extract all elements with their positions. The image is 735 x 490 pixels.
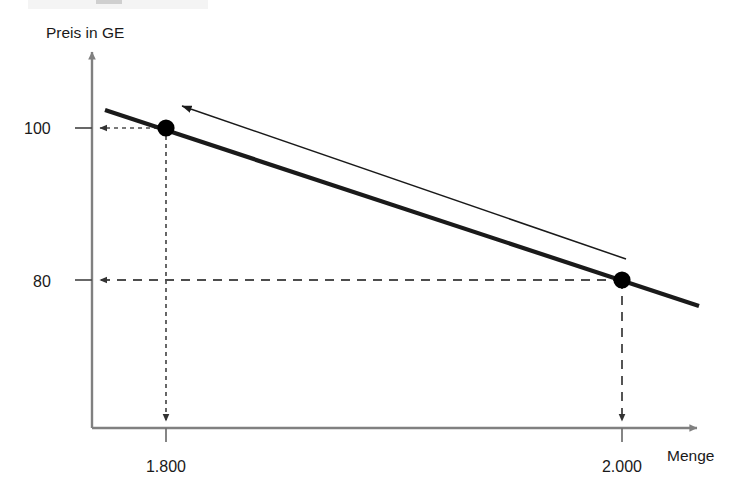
chart-canvas: Preis in GE Menge 100 80 1.800 xyxy=(0,0,735,490)
y-tick-label-80: 80 xyxy=(33,273,51,290)
guide-price-80 xyxy=(100,280,622,442)
data-point-1800-100 xyxy=(157,119,174,136)
guide-price-100 xyxy=(100,128,166,442)
data-point-2000-80 xyxy=(613,271,630,288)
x-axis-label: Menge xyxy=(667,447,714,464)
x-tick-label-1800: 1.800 xyxy=(146,458,186,475)
demand-curve-line xyxy=(105,110,699,306)
demand-curve-diagram: Preis in GE Menge 100 80 1.800 xyxy=(0,0,735,490)
movement-arrow-line xyxy=(182,106,626,259)
scan-artifact-top-text xyxy=(28,0,208,9)
y-tick-connectors xyxy=(75,128,92,280)
x-tick-label-2000: 2.000 xyxy=(602,458,642,475)
y-axis-label: Preis in GE xyxy=(46,24,124,41)
y-tick-label-100: 100 xyxy=(24,120,51,137)
axes-group xyxy=(92,52,697,428)
